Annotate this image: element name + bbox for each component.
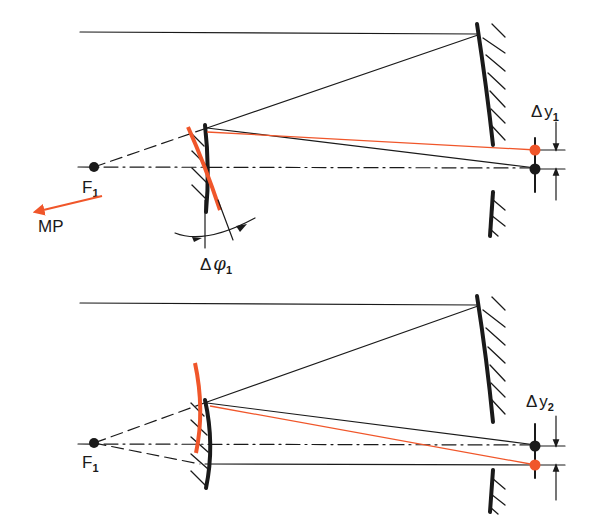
reflected-ray-shifted <box>210 406 536 465</box>
shift-label: Δy2 <box>526 392 554 413</box>
mp-arrow <box>35 196 102 212</box>
angle-arrow-left-icon <box>192 237 202 242</box>
bottom-panel: F1 Δy2 <box>78 296 565 514</box>
focus-point <box>89 438 99 448</box>
shifted-image-point <box>530 460 541 471</box>
primary-mirror <box>477 24 493 145</box>
reflected-ray-tilted <box>207 132 536 150</box>
shift-label: Δy1 <box>531 102 559 123</box>
diagram-canvas: F1 MP Δφ1 Δy1 <box>0 0 603 528</box>
angle-tilt-line <box>218 200 233 240</box>
primary-mirror-lower <box>490 470 493 512</box>
image-point <box>530 164 541 175</box>
angle-arrow-right-icon <box>236 224 247 232</box>
optical-axis <box>78 444 535 445</box>
image-point <box>530 441 541 452</box>
focus-point <box>89 162 99 172</box>
reflected-ray <box>207 128 536 168</box>
focus-label: F1 <box>82 178 99 199</box>
reflected-ray <box>207 403 536 445</box>
primary-mirror <box>477 296 493 422</box>
incoming-ray <box>80 303 478 305</box>
top-panel: F1 MP Δφ1 Δy1 <box>35 24 565 276</box>
dashed-ray-upper <box>94 402 207 443</box>
lower-parallel-ray <box>205 464 535 465</box>
ray-primary-to-secondary <box>207 35 478 128</box>
incoming-ray <box>80 32 478 34</box>
optical-axis <box>78 167 535 168</box>
angle-label: Δφ1 <box>200 253 232 276</box>
focus-label: F1 <box>82 453 99 474</box>
ray-primary-to-secondary <box>207 306 478 402</box>
dashed-ray-lower <box>94 443 200 464</box>
mp-label: MP <box>38 217 64 236</box>
shifted-image-point <box>530 145 541 156</box>
